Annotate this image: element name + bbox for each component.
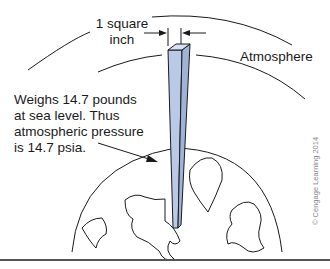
square-inch-line2: inch xyxy=(92,32,152,48)
square-inch-line1: 1 square xyxy=(92,16,152,32)
weight-line2: at sea level. Thus xyxy=(14,108,164,124)
copyright-notice: © Cengage Learning 2014 xyxy=(311,137,320,225)
outer-atmosphere-arc xyxy=(28,32,90,70)
continent-greenland xyxy=(190,158,223,212)
continent-alaska xyxy=(82,218,107,248)
atmosphere-label: Atmosphere xyxy=(240,49,313,65)
bottom-divider xyxy=(0,259,330,261)
continent-north-america xyxy=(125,195,180,260)
square-inch-label: 1 square inch xyxy=(92,16,152,48)
outer-atmosphere-arc-right xyxy=(152,16,292,45)
inner-atmosphere-arc-left xyxy=(98,55,162,72)
weight-description: Weighs 14.7 pounds at sea level. Thus at… xyxy=(14,92,164,156)
arrow-right-head xyxy=(182,30,190,36)
continent-europe xyxy=(227,202,264,252)
weight-line3: atmospheric pressure xyxy=(14,124,164,140)
weight-line1: Weighs 14.7 pounds xyxy=(14,92,164,108)
weight-line4: is 14.7 psia. xyxy=(14,140,164,156)
arrow-left-head xyxy=(159,30,167,36)
pointer-arrow-head xyxy=(146,155,158,162)
